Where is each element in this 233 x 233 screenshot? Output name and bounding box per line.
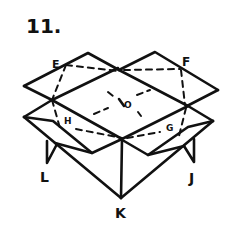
label-g: G bbox=[166, 123, 173, 133]
right-top-flap-edge bbox=[119, 52, 218, 90]
dashed-line-f-down bbox=[181, 70, 185, 105]
front-center-edge bbox=[121, 139, 122, 198]
left-diagonal-lower bbox=[52, 100, 122, 139]
left-tab-L bbox=[47, 141, 57, 163]
dashed-line-o-bottom bbox=[138, 112, 141, 116]
left-side-edge bbox=[24, 100, 52, 117]
dashed-line-o-right bbox=[137, 90, 150, 95]
dashed-line-o-left bbox=[94, 108, 108, 114]
label-h: H bbox=[64, 116, 72, 126]
label-l: L bbox=[40, 169, 49, 185]
dashed-line-h-center bbox=[76, 129, 122, 138]
label-o: O bbox=[124, 100, 132, 110]
right-flap-lower-edge bbox=[187, 90, 218, 106]
label-f: F bbox=[182, 55, 190, 69]
label-j: J bbox=[188, 170, 194, 186]
box-fold-diagram: 11. E F O H G L J K bbox=[0, 0, 233, 233]
left-diagonal-upper bbox=[52, 68, 118, 100]
dashed-line-o-top bbox=[108, 92, 113, 96]
dashed-line-f-top bbox=[124, 69, 180, 70]
left-flap-lower-edge bbox=[24, 86, 52, 100]
step-number: 11. bbox=[26, 14, 61, 38]
label-e: E bbox=[52, 58, 60, 71]
dashed-line-g bbox=[178, 108, 186, 140]
label-k: K bbox=[115, 205, 127, 221]
right-side-edge bbox=[188, 106, 213, 121]
